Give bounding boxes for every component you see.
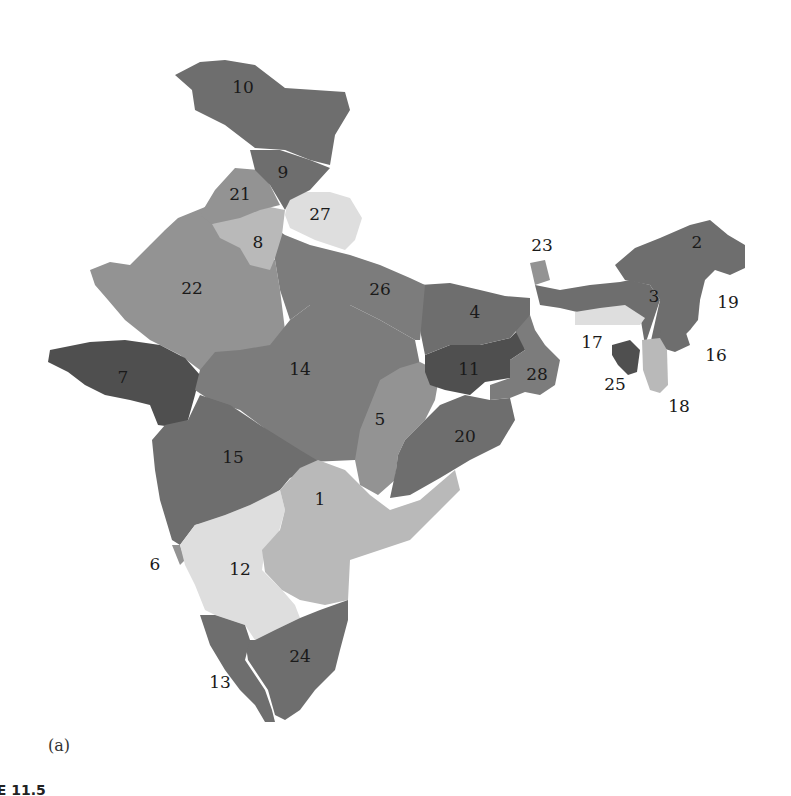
region-25 <box>612 340 640 375</box>
region-label-9: 9 <box>278 162 289 182</box>
india-region-map: 1234567891011121314151617181920212223242… <box>0 0 791 796</box>
region-label-8: 8 <box>253 232 264 252</box>
region-label-24: 24 <box>289 646 311 666</box>
region-label-25: 25 <box>604 374 626 394</box>
region-10 <box>175 60 350 165</box>
region-label-4: 4 <box>470 302 481 322</box>
region-label-26: 26 <box>369 279 391 299</box>
region-label-12: 12 <box>229 559 251 579</box>
region-label-10: 10 <box>232 77 254 97</box>
region-label-21: 21 <box>229 184 251 204</box>
region-label-22: 22 <box>181 278 203 298</box>
region-label-28: 28 <box>526 364 548 384</box>
region-19 <box>690 300 700 330</box>
region-23 <box>530 260 550 285</box>
region-label-1: 1 <box>315 489 326 509</box>
region-label-7: 7 <box>118 367 129 387</box>
figure-caption: RE 11.5 <box>0 782 46 796</box>
region-label-14: 14 <box>289 359 311 379</box>
region-label-23: 23 <box>531 235 553 255</box>
region-label-2: 2 <box>692 232 703 252</box>
region-label-17: 17 <box>581 332 603 352</box>
region-label-11: 11 <box>458 359 480 379</box>
region-label-13: 13 <box>209 672 231 692</box>
region-label-20: 20 <box>454 426 476 446</box>
panel-label: (a) <box>48 736 70 755</box>
region-label-16: 16 <box>705 345 727 365</box>
region-label-19: 19 <box>717 292 739 312</box>
region-label-3: 3 <box>649 286 660 306</box>
region-label-5: 5 <box>375 409 386 429</box>
region-label-18: 18 <box>668 396 690 416</box>
region-18 <box>642 338 668 393</box>
region-label-6: 6 <box>150 554 161 574</box>
region-label-27: 27 <box>309 204 331 224</box>
region-label-15: 15 <box>222 447 244 467</box>
